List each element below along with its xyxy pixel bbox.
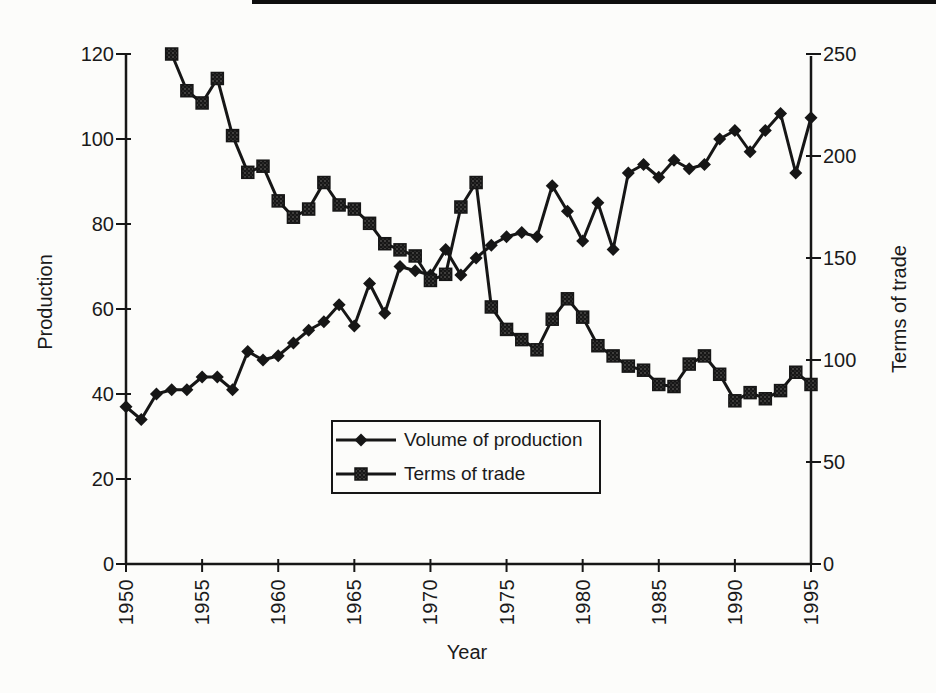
legend-entry-terms-of-trade: Terms of trade <box>335 459 599 489</box>
legend-label: Terms of trade <box>404 463 525 485</box>
chart-plot-svg <box>0 0 936 693</box>
legend-label: Volume of production <box>404 429 583 451</box>
production-series <box>120 107 818 426</box>
tick-marks <box>116 54 821 572</box>
diamond-marker-icon <box>335 432 397 448</box>
square-marker-icon <box>335 466 397 482</box>
terms-of-trade-series <box>166 48 817 407</box>
chart-legend: Volume of production Terms of trade <box>331 420 601 494</box>
scanned-chart-page: Production Terms of trade Year 195019551… <box>0 0 936 693</box>
legend-entry-volume-of-production: Volume of production <box>335 425 599 455</box>
